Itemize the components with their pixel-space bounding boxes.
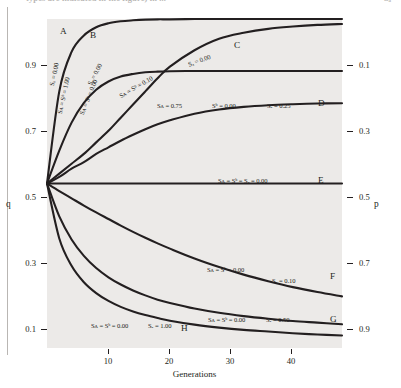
y-tick-left-2	[41, 197, 47, 198]
curve-letter-H: H	[181, 323, 188, 333]
y-label-left-4: 0.1	[14, 324, 36, 334]
y-tick-right-2	[347, 197, 353, 198]
x-label-1: 20	[157, 356, 181, 366]
y-label-right-3: 0.7	[359, 258, 381, 268]
x-label-3: 40	[279, 356, 303, 366]
y-tick-right-0	[347, 65, 353, 66]
annotation-H-params-1: Sᴀ = Sᵇ = 0.00	[91, 322, 128, 329]
y-label-right-4: 0.9	[359, 324, 381, 334]
y-tick-right-4	[347, 329, 353, 330]
curve-letter-E: E	[318, 175, 324, 185]
x-tick-3	[291, 349, 292, 354]
chart-figure: 0.9 0.7 0.5 0.3 0.1 q 0.1 0.3 0.5 0.7 0.…	[0, 13, 401, 388]
caption-text-right: Sₐ	[384, 0, 391, 3]
annotation-D-params-3: Sₐ = 0.25	[267, 102, 290, 109]
x-tick-0	[108, 349, 109, 354]
figure-page: types are indicated in the figure) in ..…	[0, 0, 401, 388]
y-tick-right-3	[347, 263, 353, 264]
x-label-2: 30	[218, 356, 242, 366]
y-axis-title-right: p	[374, 199, 379, 209]
curve-letter-B: B	[90, 30, 96, 40]
y-label-left-1: 0.7	[14, 126, 36, 136]
curve-letter-F: F	[330, 271, 335, 281]
y-label-left-0: 0.9	[14, 60, 36, 70]
annotation-D-params-2: Sᵇ = 0.00	[212, 102, 236, 109]
annotation-E-params: Sᴀ = Sᵇ = Sₐ = 0.00	[218, 177, 268, 184]
curve-layer	[47, 19, 342, 348]
curve-letter-A: A	[60, 26, 67, 36]
annotation-F-params-1: Sᴀ = Sᵇ = 0.00	[207, 266, 244, 273]
x-label-0: 10	[96, 356, 120, 366]
caption-text: types are indicated in the figure) in ..…	[26, 0, 386, 3]
annotation-G-params-1: Sᴀ = Sᵇ = 0.00	[208, 316, 245, 323]
caption-strip: types are indicated in the figure) in ..…	[0, 0, 401, 13]
y-tick-left-4	[41, 329, 47, 330]
curve-D	[47, 103, 342, 183]
x-axis-title: Generations	[47, 369, 342, 379]
y-axis-title-left: q	[6, 199, 11, 209]
y-tick-right-1	[347, 131, 353, 132]
curve-letter-C: C	[234, 40, 240, 50]
curve-letter-G: G	[330, 314, 337, 324]
y-label-right-0: 0.1	[359, 60, 381, 70]
y-label-right-1: 0.3	[359, 126, 381, 136]
curve-letter-D: D	[318, 98, 325, 108]
y-label-left-3: 0.3	[14, 258, 36, 268]
y-tick-left-3	[41, 263, 47, 264]
y-tick-left-0	[41, 65, 47, 66]
annotation-H-params-2: Sₐ = 1.00	[148, 322, 171, 329]
curve-F	[47, 184, 342, 297]
x-tick-1	[169, 349, 170, 354]
curve-G	[47, 184, 342, 325]
y-tick-left-1	[41, 131, 47, 132]
annotation-G-params-2: Sₐ = 0.50	[266, 316, 289, 323]
y-label-left-2: 0.5	[14, 192, 36, 202]
annotation-D-params-1: Sᴀ = 0.75	[157, 102, 182, 109]
x-tick-2	[230, 349, 231, 354]
curve-A	[47, 19, 342, 184]
annotation-F-params-2: Sₐ = 0.10	[272, 277, 295, 284]
